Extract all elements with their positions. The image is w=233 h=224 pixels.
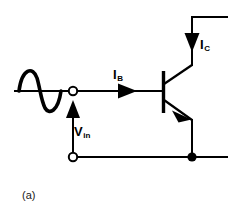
input-voltage-subscript: in bbox=[83, 131, 90, 140]
base-current-subscript: B bbox=[117, 74, 123, 83]
npn-transistor-symbol bbox=[164, 65, 193, 123]
input-voltage-arrow-icon bbox=[66, 100, 80, 118]
base-current-label: IB bbox=[113, 66, 123, 83]
input-voltage-symbol: V bbox=[74, 124, 83, 139]
figure-caption: (a) bbox=[22, 190, 35, 201]
circuit-figure: IC IB Vin (a) bbox=[0, 0, 233, 224]
base-current-arrow-icon bbox=[118, 84, 137, 99]
collector-current-arrow-icon bbox=[185, 33, 200, 52]
input-voltage-label: Vin bbox=[74, 123, 90, 140]
collector-current-label: IC bbox=[200, 36, 210, 53]
ground-terminal-circle bbox=[69, 153, 77, 161]
collector-current-subscript: C bbox=[204, 44, 210, 53]
input-terminal-circle bbox=[69, 87, 77, 95]
ac-sine-source-group bbox=[14, 71, 69, 112]
junction-node-dot bbox=[187, 152, 196, 161]
transistor-collector-lead bbox=[164, 65, 192, 84]
